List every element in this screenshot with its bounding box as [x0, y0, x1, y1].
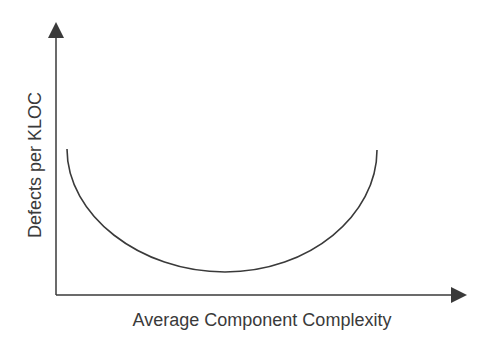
y-axis-arrow-icon [48, 22, 64, 38]
chart-canvas [0, 0, 485, 349]
u-curve [67, 149, 377, 272]
x-axis-arrow-icon [451, 287, 467, 303]
x-axis-label: Average Component Complexity [133, 310, 392, 331]
y-axis-label: Defects per KLOC [25, 92, 46, 238]
